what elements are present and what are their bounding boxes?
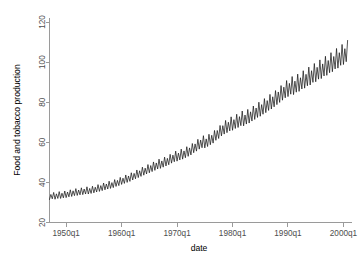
- x-tick-label: 1990q1: [274, 229, 302, 238]
- x-tick-label: 1950q1: [52, 229, 80, 238]
- x-axis-title: date: [191, 243, 208, 253]
- y-axis-title: Food and tobacco production: [12, 64, 22, 176]
- y-tick-label: 20: [38, 218, 47, 228]
- y-tick-label: 120: [38, 15, 47, 29]
- x-tick-label: 1980q1: [219, 229, 247, 238]
- x-tick-label: 2000q1: [330, 229, 358, 238]
- plot-svg: 20406080100120 1950q11960q11970q11980q11…: [0, 0, 363, 270]
- y-tick-label: 80: [38, 97, 47, 107]
- x-tick-label: 1960q1: [108, 229, 136, 238]
- y-tick-label: 100: [38, 55, 47, 69]
- y-tick-label: 40: [38, 177, 47, 187]
- x-tick-label: 1970q1: [163, 229, 191, 238]
- screenshot-root: 20406080100120 1950q11960q11970q11980q11…: [0, 0, 363, 270]
- y-tick-label: 60: [38, 137, 47, 147]
- chart-figure: 20406080100120 1950q11960q11970q11980q11…: [0, 0, 363, 270]
